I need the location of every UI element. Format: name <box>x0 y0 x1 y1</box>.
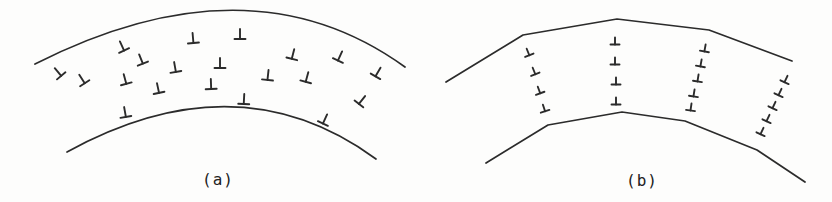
dislocation-bar <box>700 51 709 53</box>
dislocation-stem <box>323 114 327 123</box>
dislocation-stem <box>174 62 176 72</box>
edge-dislocation-symbol <box>262 69 274 80</box>
edge-dislocation-symbol <box>119 106 132 118</box>
dislocation-stem <box>697 75 698 82</box>
dislocation-stem <box>79 75 84 83</box>
edge-dislocation-symbol <box>115 39 129 53</box>
edge-dislocation-symbol <box>152 82 165 94</box>
edge-dislocation-symbol <box>118 73 131 86</box>
dislocation-bar <box>154 92 165 94</box>
dislocation-bar <box>188 43 199 44</box>
edge-dislocation-symbol <box>689 89 699 97</box>
dislocation-stem <box>120 41 124 50</box>
edge-dislocation-symbol <box>523 47 534 57</box>
dislocation-stem <box>527 49 530 55</box>
edge-dislocation-symbol <box>611 58 620 65</box>
dislocation-stem <box>306 72 309 82</box>
dislocation-stem <box>157 83 159 93</box>
panel-b-label: (b) <box>626 171 658 190</box>
dislocation-stem <box>773 102 776 108</box>
dislocation-bar <box>286 58 297 61</box>
edge-dislocation-symbol <box>762 113 773 123</box>
dislocation-wall-4 <box>756 74 791 136</box>
edge-dislocation-symbol <box>686 103 696 111</box>
dislocation-stem <box>139 54 143 63</box>
dislocation-stem <box>124 107 126 117</box>
edge-dislocation-symbol <box>780 74 791 84</box>
edge-dislocation-symbol <box>774 87 785 97</box>
dislocation-stem <box>292 49 294 59</box>
dislocation-stem <box>376 68 381 77</box>
panel-a <box>35 10 405 159</box>
dislocation-stem <box>767 115 770 121</box>
edge-dislocation-symbol <box>612 78 621 85</box>
crystal-boundary-top-polyline <box>446 19 792 82</box>
dislocation-stem <box>693 90 694 97</box>
dislocation-stem <box>193 33 194 43</box>
dislocation-stem <box>700 60 701 67</box>
dislocation-stem <box>124 74 127 84</box>
edge-dislocation-symbol <box>300 71 313 84</box>
panel-b <box>446 19 805 182</box>
dislocation-stem <box>761 128 764 134</box>
dislocation-stem <box>691 104 692 111</box>
dislocation-stem <box>533 68 536 74</box>
dislocation-stem <box>543 105 545 112</box>
dislocation-stem <box>55 68 61 76</box>
edge-dislocation-symbol <box>51 65 66 80</box>
edge-dislocation-symbol <box>318 112 332 126</box>
edge-dislocation-symbol <box>75 72 90 86</box>
dislocation-bar <box>693 81 702 82</box>
dislocation-stem <box>785 76 788 82</box>
dislocation-bar <box>686 110 695 111</box>
edge-dislocation-symbol <box>534 85 545 95</box>
edge-dislocation-symbol <box>700 44 710 52</box>
dislocation-wall-1 <box>523 47 550 113</box>
edge-dislocation-symbol <box>529 66 540 76</box>
dislocation-bar <box>120 116 131 118</box>
dislocation-stem <box>338 51 342 60</box>
figure-canvas: (a) (b) <box>0 0 832 202</box>
edge-dislocation-symbol <box>612 98 621 105</box>
crystal-boundary-bottom-arc <box>67 107 376 159</box>
dislocation-stem <box>267 70 268 80</box>
edge-dislocation-symbol <box>169 61 182 73</box>
dislocation-bar <box>689 96 698 97</box>
edge-dislocation-symbol <box>333 49 347 63</box>
edge-dislocation-symbol <box>286 48 299 60</box>
panel-a-label: (a) <box>202 170 234 189</box>
edge-dislocation-symbol <box>611 38 620 45</box>
dislocation-diagram <box>0 0 832 202</box>
dislocation-stem <box>244 94 245 104</box>
dislocation-wall-3 <box>686 44 710 111</box>
dislocation-bar <box>541 110 550 113</box>
edge-dislocation-symbol <box>355 93 370 108</box>
dislocation-bar <box>371 74 381 80</box>
edge-dislocation-symbol <box>371 65 386 79</box>
edge-dislocation-symbol <box>693 74 703 82</box>
dislocation-wall-2 <box>611 38 621 105</box>
dislocation-stem <box>779 89 782 95</box>
dislocation-bar <box>80 80 89 86</box>
edge-dislocation-symbol <box>205 79 216 89</box>
edge-dislocation-symbol <box>215 58 226 68</box>
edge-dislocation-symbol <box>238 94 250 105</box>
dislocation-bar <box>170 71 181 73</box>
edge-dislocation-symbol <box>756 126 767 136</box>
dislocation-bar <box>262 79 273 80</box>
dislocation-bar <box>238 104 249 105</box>
edge-dislocation-symbol <box>539 103 550 112</box>
dislocation-stem <box>359 96 365 104</box>
edge-dislocation-symbol <box>696 59 706 67</box>
edge-dislocation-symbol <box>235 29 246 39</box>
edge-dislocation-symbol <box>768 100 779 110</box>
edge-dislocation-symbol <box>134 52 148 65</box>
dislocation-stem <box>704 45 705 52</box>
dislocation-bar <box>696 66 705 68</box>
edge-dislocation-symbol <box>187 33 199 44</box>
dislocation-stem <box>538 87 540 94</box>
